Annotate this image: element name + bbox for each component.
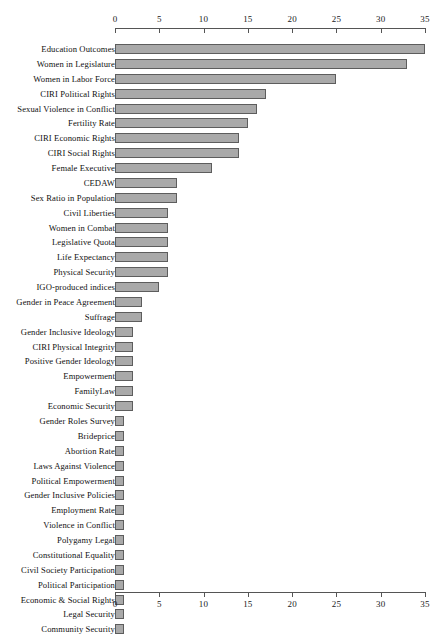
axis-tick-label: 35	[412, 599, 438, 609]
bar-category-label: Gender Roles Survey	[40, 416, 115, 427]
bar	[115, 237, 168, 247]
axis-tick-label: 5	[146, 599, 172, 609]
bar-category-label: CIRI Social Rights	[48, 148, 115, 159]
bar-row: Sexual Violence in Conflict	[0, 104, 443, 119]
bar-row: Suffrage	[0, 312, 443, 327]
bar	[115, 416, 124, 426]
bar-category-label: Women in Legislature	[37, 59, 115, 70]
bar-category-label: Employment Rate	[51, 505, 115, 516]
axis-tick	[425, 28, 426, 33]
bar-row: Political Empowerment	[0, 476, 443, 491]
axis-tick-label: 25	[323, 14, 349, 24]
bar	[115, 312, 142, 322]
bar-category-label: Women in Combat	[49, 223, 115, 234]
bar	[115, 624, 124, 634]
axis-tick	[204, 28, 205, 33]
bar	[115, 476, 124, 486]
axis-tick-label: 25	[323, 599, 349, 609]
bar	[115, 535, 124, 545]
bar-category-label: CIRI Physical Integrity	[33, 342, 116, 353]
axis-tick	[292, 28, 293, 33]
bar-row: Life Expectancy	[0, 252, 443, 267]
bar-row: CIRI Political Rights	[0, 89, 443, 104]
bar	[115, 371, 133, 381]
bar-row: Sex Ratio in Population	[0, 193, 443, 208]
bar-category-label: Positive Gender Ideology	[25, 356, 115, 367]
bottom-axis: 05101520253035	[0, 588, 443, 618]
axis-tick	[336, 28, 337, 33]
bar	[115, 74, 336, 84]
bar-category-label: Civil Society Participation	[21, 565, 115, 576]
bar-row: Laws Against Violence	[0, 461, 443, 476]
bar-row: CIRI Physical Integrity	[0, 342, 443, 357]
bar-row: CIRI Social Rights	[0, 148, 443, 163]
bar	[115, 461, 124, 471]
bar	[115, 104, 257, 114]
bar-category-label: Suffrage	[85, 312, 115, 323]
axis-tick	[115, 592, 116, 597]
bar-row: Women in Labor Force	[0, 74, 443, 89]
bar-category-label: Economic Security	[48, 401, 115, 412]
bar	[115, 386, 133, 396]
bar-row: FamilyLaw	[0, 386, 443, 401]
bar-category-label: Laws Against Violence	[33, 461, 115, 472]
bar-row: Civil Society Participation	[0, 565, 443, 580]
bar	[115, 89, 266, 99]
axis-tick	[159, 28, 160, 33]
bar-row: Education Outcomes	[0, 44, 443, 59]
bar	[115, 59, 407, 69]
bar	[115, 223, 168, 233]
bar	[115, 133, 239, 143]
bar	[115, 118, 248, 128]
bar	[115, 252, 168, 262]
bar-row: Abortion Rate	[0, 446, 443, 461]
axis-tick	[248, 592, 249, 597]
axis-tick	[159, 592, 160, 597]
bar	[115, 148, 239, 158]
bar-category-label: Brideprice	[78, 431, 115, 442]
bar-category-label: IGO-produced indices	[36, 282, 115, 293]
axis-line	[115, 28, 425, 29]
bar	[115, 565, 124, 575]
bar	[115, 446, 124, 456]
bar-row: IGO-produced indices	[0, 282, 443, 297]
bar-category-label: CIRI Economic Rights	[34, 133, 115, 144]
bar-row: Women in Combat	[0, 223, 443, 238]
axis-tick-label: 15	[235, 599, 261, 609]
axis-tick-label: 15	[235, 14, 261, 24]
axis-tick-label: 30	[368, 14, 394, 24]
bar	[115, 267, 168, 277]
bar-category-label: Female Executive	[52, 163, 115, 174]
axis-tick-label: 10	[191, 599, 217, 609]
bar-category-label: Polygamy Legal	[57, 535, 115, 546]
bar-row: Gender Inclusive Policies	[0, 490, 443, 505]
bar-category-label: Gender in Peace Agreement	[16, 297, 115, 308]
bar	[115, 44, 425, 54]
bar-row: Community Security	[0, 624, 443, 638]
bar	[115, 550, 124, 560]
bar-category-label: Legislative Quota	[52, 237, 115, 248]
bar-category-label: Gender Inclusive Ideology	[21, 327, 115, 338]
bar-row: Female Executive	[0, 163, 443, 178]
bar-row: Gender Inclusive Ideology	[0, 327, 443, 342]
bar-category-label: Fertility Rate	[68, 118, 115, 129]
bar-category-label: Women in Labor Force	[33, 74, 115, 85]
bar-category-label: Civil Liberties	[64, 208, 115, 219]
bar	[115, 208, 168, 218]
bar-category-label: Life Expectancy	[57, 252, 115, 263]
bar	[115, 193, 177, 203]
bar-row: Physical Security	[0, 267, 443, 282]
bar-row: Civil Liberties	[0, 208, 443, 223]
bar-row: Polygamy Legal	[0, 535, 443, 550]
bar-category-label: Physical Security	[53, 267, 115, 278]
axis-tick	[381, 592, 382, 597]
bar-category-label: CEDAW	[84, 178, 115, 189]
axis-tick-label: 20	[279, 599, 305, 609]
bar	[115, 505, 124, 515]
bar-row: Gender in Peace Agreement	[0, 297, 443, 312]
bar	[115, 520, 124, 530]
bar	[115, 490, 124, 500]
bar-row: CEDAW	[0, 178, 443, 193]
bar-row: Women in Legislature	[0, 59, 443, 74]
